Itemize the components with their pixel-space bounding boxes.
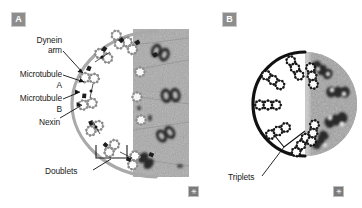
panel-a-doublets bbox=[76, 28, 142, 172]
panel-b-graphics bbox=[253, 48, 362, 176]
label-dynein-arm-line2: arm bbox=[0, 45, 62, 55]
corner-mark-a[interactable]: ✳ bbox=[188, 186, 199, 197]
label-microtubule-a-line2: A bbox=[0, 80, 62, 90]
triplets-leader bbox=[262, 147, 284, 176]
panel-tag-a: A bbox=[11, 12, 26, 27]
figure-canvas: A B Dynein arm Microtubule A Microtubule… bbox=[0, 0, 362, 208]
label-triplets: Triplets bbox=[228, 172, 254, 182]
label-nexin: Nexin bbox=[0, 117, 60, 127]
panel-a-micrograph bbox=[133, 29, 189, 177]
label-dynein-arm-line1: Dynein bbox=[0, 35, 62, 45]
label-microtubule-b-line2: B bbox=[0, 104, 62, 114]
corner-mark-b[interactable]: ✳ bbox=[333, 186, 344, 197]
panel-a-leaders bbox=[60, 51, 111, 170]
label-microtubule-a-line1: Microtubule bbox=[0, 69, 62, 79]
panel-tag-b: B bbox=[222, 12, 237, 27]
panel-a-graphics bbox=[60, 28, 189, 177]
label-microtubule-b-line1: Microtubule bbox=[0, 93, 62, 103]
label-doublets: Doublets bbox=[45, 166, 77, 176]
